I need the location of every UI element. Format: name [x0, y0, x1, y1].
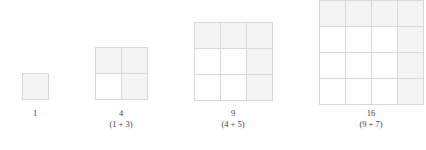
- grid-cell: [371, 26, 398, 53]
- grid-cell: [345, 52, 372, 79]
- grid-cell-shaded: [397, 52, 424, 79]
- grid-cell: [319, 78, 346, 105]
- caption-4: 16(9 + 7): [311, 108, 426, 131]
- grid-cell-shaded: [22, 73, 49, 100]
- grid-cell-shaded: [194, 22, 221, 49]
- grid-cell: [371, 78, 398, 105]
- grid-cell-shaded: [371, 0, 398, 27]
- caption-sum-label: (4 + 5): [173, 119, 293, 130]
- grid-cell: [220, 48, 247, 75]
- caption-2: 4(1 + 3): [61, 108, 181, 131]
- grid-cell-shaded: [397, 0, 424, 27]
- caption-sum-label: (1 + 3): [61, 119, 181, 130]
- caption-3: 9(4 + 5): [173, 108, 293, 131]
- grid-cell: [319, 52, 346, 79]
- grid-2x2: [95, 47, 147, 99]
- grid-cell: [319, 26, 346, 53]
- grid-cell-shaded: [246, 74, 273, 101]
- grid-cell: [345, 78, 372, 105]
- grid-4x4: [319, 0, 423, 104]
- grid-3x3: [194, 22, 272, 100]
- grid-cell: [194, 48, 221, 75]
- caption-total-label: 4: [61, 108, 181, 119]
- grid-cell: [194, 74, 221, 101]
- grid-cell-shaded: [95, 47, 122, 74]
- grid-cell: [371, 52, 398, 79]
- caption-total-label: 9: [173, 108, 293, 119]
- grid-cell-shaded: [220, 22, 247, 49]
- grid-cell: [220, 74, 247, 101]
- grid-cell-shaded: [397, 26, 424, 53]
- grid-cell-shaded: [121, 73, 148, 100]
- gnomon-square-numbers-figure: 14(1 + 3)9(4 + 5)16(9 + 7): [0, 0, 426, 150]
- grid-cell: [95, 73, 122, 100]
- caption-total-label: 16: [311, 108, 426, 119]
- caption-sum-label: (9 + 7): [311, 119, 426, 130]
- grid-cell-shaded: [246, 48, 273, 75]
- grid-cell-shaded: [246, 22, 273, 49]
- grid-cell-shaded: [121, 47, 148, 74]
- grid-cell-shaded: [319, 0, 346, 27]
- grid-cell-shaded: [345, 0, 372, 27]
- grid-cell: [345, 26, 372, 53]
- grid-1x1: [22, 73, 48, 99]
- grid-cell-shaded: [397, 78, 424, 105]
